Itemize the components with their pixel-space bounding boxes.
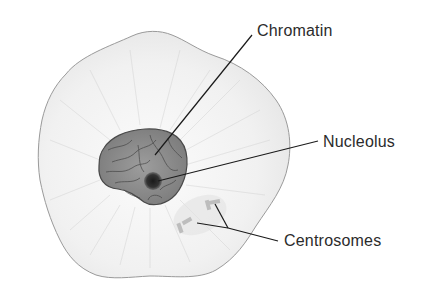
label-chromatin: Chromatin [257,22,333,40]
label-nucleolus: Nucleolus [323,133,395,151]
label-centrosomes: Centrosomes [284,232,381,250]
